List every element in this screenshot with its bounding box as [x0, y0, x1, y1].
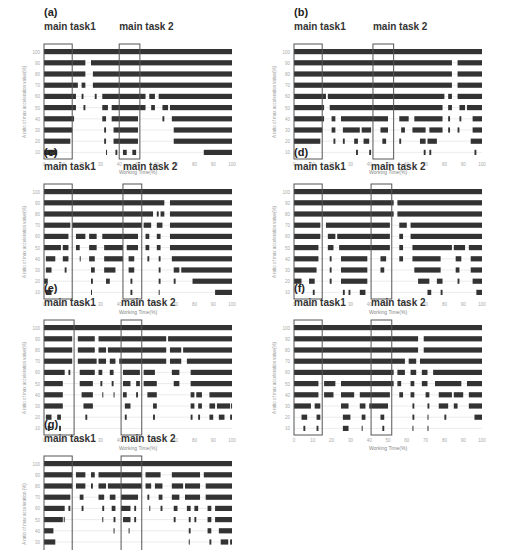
- panel-label: (e): [44, 282, 58, 294]
- y-tick-label: 70: [35, 223, 41, 228]
- x-tick-label: 90: [461, 438, 467, 443]
- task-label: main task1: [294, 21, 346, 32]
- y-tick-label: 50: [35, 106, 41, 111]
- activity-bar: [206, 495, 232, 500]
- activity-bar: [172, 116, 232, 121]
- y-axis-label: A ratio of max acceleration value(%): [22, 341, 27, 414]
- activity-bar: [44, 60, 85, 65]
- activity-bar: [102, 94, 145, 99]
- activity-bar: [44, 381, 63, 386]
- activity-bar: [427, 415, 428, 420]
- activity-bar: [209, 403, 215, 408]
- activity-bar: [328, 234, 336, 239]
- activity-bar: [328, 94, 445, 99]
- activity-bar: [95, 94, 97, 99]
- activity-bar: [146, 245, 150, 250]
- activity-bar: [44, 495, 70, 500]
- activity-bar: [294, 267, 317, 272]
- activity-bar: [208, 517, 212, 522]
- activity-bar: [330, 105, 443, 110]
- activity-bar: [294, 223, 320, 228]
- activity-bar: [326, 223, 390, 228]
- activity-bar: [170, 200, 232, 205]
- activity-bar: [412, 403, 414, 408]
- activity-bar: [294, 116, 324, 121]
- activity-bar: [215, 517, 232, 522]
- activity-bar: [324, 392, 333, 397]
- activity-bar: [108, 347, 166, 352]
- activity-bar: [414, 116, 442, 121]
- activity-bar: [89, 234, 97, 239]
- activity-bar: [448, 94, 452, 99]
- activity-bar: [215, 506, 232, 511]
- activity-bar: [194, 517, 196, 522]
- activity-bar: [317, 415, 321, 420]
- activity-bar: [82, 506, 84, 511]
- activity-bar: [82, 94, 84, 99]
- activity-bar: [82, 83, 86, 88]
- y-tick-label: 90: [35, 61, 41, 66]
- activity-bar: [426, 392, 430, 397]
- panel-c: (c)main task1main task 21009080706050403…: [4, 142, 244, 267]
- activity-bar: [100, 381, 102, 386]
- activity-bar: [412, 127, 425, 132]
- task-label: main task 2: [373, 21, 428, 32]
- activity-bar: [187, 359, 232, 364]
- activity-bar: [99, 495, 105, 500]
- y-tick-label: 50: [285, 106, 291, 111]
- y-axis-label: A ratio of max acceleration value(%): [22, 205, 27, 278]
- chart-svg: (d)main task1main task 21009080706050403…: [254, 142, 494, 278]
- activity-bar: [80, 370, 95, 375]
- activity-bar: [435, 381, 461, 386]
- activity-bar: [104, 267, 115, 272]
- activity-bar: [456, 256, 462, 261]
- y-tick-label: 90: [35, 473, 41, 478]
- activity-bar: [157, 245, 161, 250]
- y-tick-label: 30: [285, 128, 291, 133]
- activity-bar: [170, 211, 232, 216]
- activity-bar: [46, 267, 52, 272]
- x-tick-label: 40: [367, 438, 373, 443]
- activity-bar: [294, 211, 394, 216]
- activity-bar: [439, 403, 448, 408]
- activity-bar: [149, 94, 155, 99]
- y-tick-label: 40: [285, 393, 291, 398]
- activity-bar: [399, 234, 403, 239]
- y-tick-label: 80: [285, 212, 291, 217]
- activity-bar: [144, 381, 157, 386]
- task-label: main task1: [44, 21, 96, 32]
- activity-bar: [134, 517, 136, 522]
- activity-bar: [294, 105, 324, 110]
- activity-bar: [380, 256, 386, 261]
- activity-bar: [102, 105, 108, 110]
- activity-bar: [162, 116, 164, 121]
- activity-bar: [198, 403, 202, 408]
- y-tick-label: 30: [35, 404, 41, 409]
- activity-bar: [44, 83, 78, 88]
- x-tick-label: 60: [404, 438, 410, 443]
- activity-bar: [397, 200, 482, 205]
- chart-svg: (e)main task1main task 21009080706050403…: [4, 278, 244, 414]
- activity-bar: [294, 256, 318, 261]
- activity-bar: [294, 245, 318, 250]
- panel-label: (a): [44, 6, 58, 18]
- y-tick-label: 70: [285, 359, 291, 364]
- activity-bar: [89, 256, 95, 261]
- activity-bar: [44, 116, 74, 121]
- activity-bar: [471, 267, 482, 272]
- activity-bar: [99, 347, 107, 352]
- activity-bar: [424, 347, 482, 352]
- activity-bar: [112, 381, 114, 386]
- y-tick-label: 10: [285, 426, 291, 431]
- activity-bar: [78, 336, 95, 341]
- y-tick-label: 100: [32, 462, 40, 467]
- x-tick-label: 70: [423, 438, 429, 443]
- y-tick-label: 30: [285, 404, 291, 409]
- y-tick-label: 70: [35, 83, 41, 88]
- activity-bar: [125, 403, 131, 408]
- y-tick-label: 40: [35, 257, 41, 262]
- activity-bar: [123, 370, 140, 375]
- activity-bar: [44, 105, 76, 110]
- y-tick-label: 50: [35, 518, 41, 523]
- activity-bar: [44, 483, 72, 488]
